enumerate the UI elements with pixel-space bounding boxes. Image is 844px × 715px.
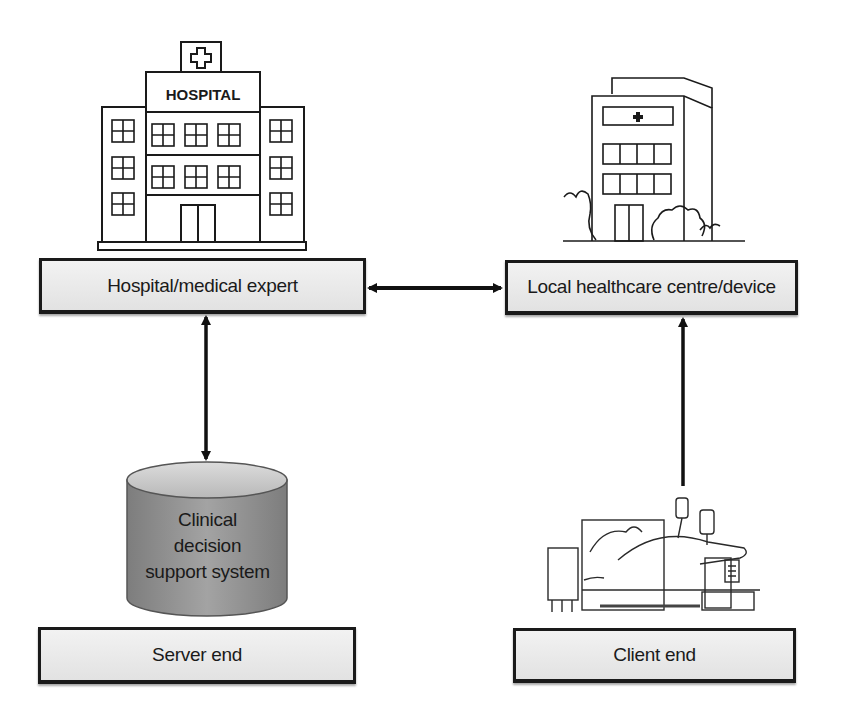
cdss-line-2: decision	[125, 533, 290, 559]
server-end-box: Server end	[38, 627, 356, 684]
svg-text:HOSPITAL: HOSPITAL	[166, 86, 241, 103]
hospital-building-icon: HOSPITAL	[98, 42, 306, 250]
local-healthcare-box: Local healthcare centre/device	[505, 260, 798, 315]
cdss-label: Clinical decision support system	[125, 507, 290, 585]
hospital-expert-box: Hospital/medical expert	[39, 258, 366, 314]
cdss-line-1: Clinical	[125, 507, 290, 533]
diagram-canvas: HOSPITAL	[0, 0, 844, 715]
clinic-building-icon	[563, 78, 745, 241]
patient-bed-icon	[548, 498, 760, 612]
cdss-line-3: support system	[125, 559, 290, 585]
client-end-box: Client end	[513, 628, 796, 683]
